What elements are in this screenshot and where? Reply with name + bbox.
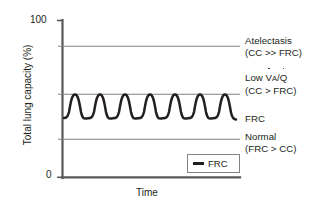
annotation-atelectasis-sublabel: (CC >> FRC) <box>245 47 302 58</box>
annotation-normal-sublabel: (FRC > CC) <box>245 143 296 154</box>
low-vq-q-letter: Q <box>280 72 288 83</box>
annotation-frc: FRC <box>245 113 265 124</box>
legend-label-frc: FRC <box>208 158 228 169</box>
annotation-normal: Normal <box>245 131 276 142</box>
x-axis-label: Time <box>136 187 158 199</box>
lung-capacity-chart: Total lung capacity (%) 100 0 Time Atele… <box>0 0 328 209</box>
annotation-atelectasis: Atelectasis <box>245 35 292 46</box>
low-vq-prefix: Low <box>245 72 265 83</box>
q-dot-symbol: Q <box>280 72 288 83</box>
annotation-low-va-q-sublabel: (CC > FRC) <box>245 85 296 96</box>
legend-line-swatch-frc <box>193 162 204 164</box>
ytick-label-0: 0 <box>46 169 52 181</box>
chart-legend: FRC <box>187 154 240 173</box>
overdot-v-icon <box>268 68 270 70</box>
ytick-label-100: 100 <box>30 14 47 26</box>
y-axis-label: Total lung capacity (%) <box>22 15 34 175</box>
v-dot-symbol: V <box>265 72 271 83</box>
low-vq-v-letter: V <box>265 72 271 83</box>
annotation-low-va-q: Low VA/Q <box>245 72 287 83</box>
frc-waveform <box>64 95 236 120</box>
